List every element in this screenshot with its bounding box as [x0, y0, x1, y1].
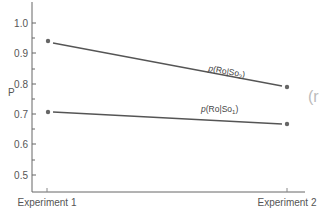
- line-chart: 1.0 0.9 0.8 0.7 0.6 0.5 P Experiment 1 E…: [0, 0, 320, 210]
- y-ticks: [32, 23, 36, 175]
- y-tick-label: 1.0: [14, 18, 28, 29]
- series-line-so2: [53, 43, 282, 86]
- y-tick-label: 0.5: [14, 170, 28, 181]
- series-line-so1: [53, 112, 282, 124]
- x-tick-label: Experiment 1: [18, 197, 77, 208]
- series-label-so2: p(Ro|So2): [206, 63, 246, 80]
- y-tick-label: 0.6: [14, 139, 28, 150]
- y-tick-label: 0.7: [14, 109, 28, 120]
- y-tick-label: 0.8: [14, 79, 28, 90]
- x-tick-label: Experiment 2: [258, 197, 317, 208]
- y-axis-label: P: [8, 87, 15, 98]
- data-point: [46, 39, 50, 43]
- data-point: [285, 122, 289, 126]
- cut-off-annotation: (r: [308, 88, 319, 105]
- data-point: [46, 110, 50, 114]
- y-tick-label: 0.9: [14, 48, 28, 59]
- data-point: [285, 85, 289, 89]
- series-label-so1: p(Ro|So1): [200, 104, 238, 115]
